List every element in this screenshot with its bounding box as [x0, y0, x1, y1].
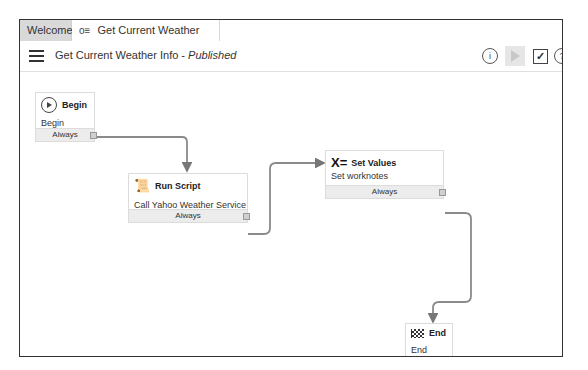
checkered-flag-icon	[411, 329, 424, 338]
node-set-values-title: Set Values	[351, 158, 396, 168]
node-run-script[interactable]: 📜Run Script Call Yahoo Weather Service A…	[128, 173, 248, 223]
node-set-values-condition: Always	[326, 185, 443, 198]
node-run-script-condition: Always	[129, 209, 247, 222]
help-icon: ?	[554, 48, 563, 64]
title-separator: -	[178, 49, 188, 61]
node-set-values-subtitle: Set worknotes	[331, 171, 388, 181]
node-run-script-title: Run Script	[155, 181, 201, 191]
tab-welcome-label: Welcome	[27, 24, 73, 36]
run-script-output-port[interactable]	[243, 213, 250, 220]
node-begin-title: Begin	[62, 100, 87, 110]
toolbar: Get Current Weather Info - Published i ✓…	[20, 41, 562, 72]
begin-output-port[interactable]	[90, 132, 97, 139]
node-end[interactable]: End End	[405, 323, 453, 357]
run-icon	[511, 50, 520, 62]
wire-setvalues-to-end	[433, 213, 471, 322]
node-set-values[interactable]: X=Set Values Set worknotes Always	[325, 150, 444, 199]
run-button[interactable]	[505, 46, 525, 66]
tab-bar: Welcome o≡ Get Current Weather Info	[20, 20, 562, 42]
wire-runscript-to-setvalues	[248, 163, 324, 234]
checkout-button[interactable]: ✓	[530, 46, 550, 66]
workflow-icon: o≡	[79, 20, 90, 41]
status-label: Published	[188, 49, 236, 61]
info-button[interactable]: i	[480, 46, 500, 66]
script-icon: 📜	[134, 178, 150, 193]
workflow-name: Get Current Weather Info	[55, 49, 178, 61]
tab-welcome[interactable]: Welcome	[20, 20, 72, 41]
page-title: Get Current Weather Info - Published	[55, 49, 236, 61]
info-icon: i	[482, 48, 498, 64]
wire-begin-to-runscript	[96, 137, 187, 171]
node-end-title: End	[429, 328, 446, 338]
checkbox-icon: ✓	[533, 49, 548, 64]
set-values-output-port[interactable]	[439, 189, 446, 196]
node-begin-subtitle: Begin	[41, 118, 64, 128]
help-button[interactable]: ?	[552, 46, 563, 66]
workflow-canvas[interactable]: Begin Begin Always 📜Run Script Call Yaho…	[20, 72, 562, 356]
node-end-subtitle: End	[411, 345, 427, 355]
workflow-editor-window: Welcome o≡ Get Current Weather Info Get …	[19, 19, 563, 357]
node-begin[interactable]: Begin Begin Always	[35, 92, 95, 142]
set-values-icon: X=	[331, 155, 347, 170]
play-circle-icon	[41, 97, 57, 113]
menu-icon[interactable]	[29, 50, 44, 62]
tab-get-current-weather-info[interactable]: o≡ Get Current Weather Info	[72, 20, 220, 41]
connectors	[20, 72, 563, 357]
node-begin-condition: Always	[36, 128, 94, 141]
